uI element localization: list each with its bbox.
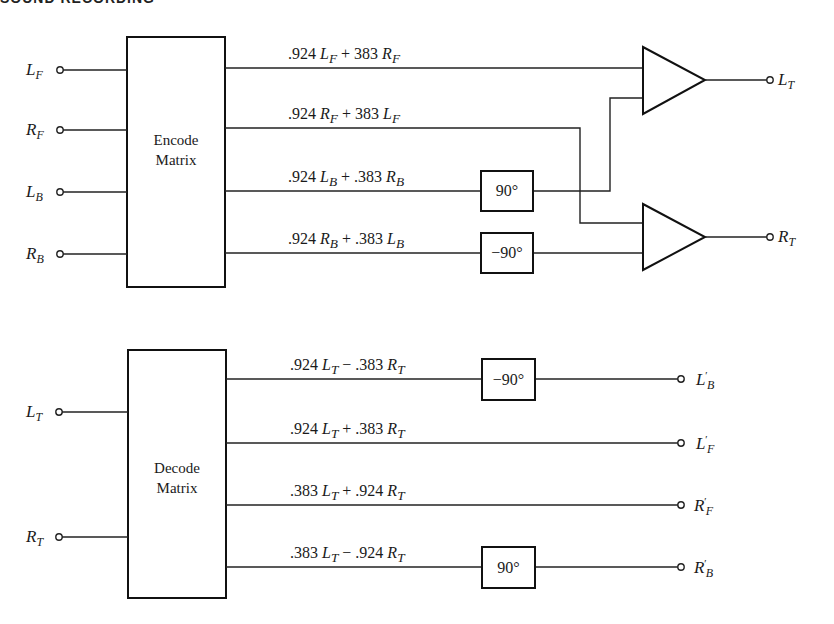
decoder-input-label-lt: LT [26, 403, 42, 423]
output-label-lb-prime: L′B [696, 370, 714, 391]
decoder-phase-label-minus-90: −90° [482, 372, 535, 388]
decoder-output-eq-1: .924 LT − .383 RT [290, 357, 405, 377]
decoder-input-label-rt: RT [26, 528, 43, 548]
encoder-phase-label-minus-90: −90° [481, 245, 533, 261]
encoder-output-eq-3: .924 LB + .383 RB [288, 169, 404, 189]
summing-amplifier-lt [643, 47, 705, 114]
input-label-rf: RF [26, 121, 44, 141]
decode-matrix-label: DecodeMatrix [128, 458, 226, 498]
output-label-lf-prime: L′F [696, 434, 714, 455]
circuit-wiring [0, 0, 834, 624]
encoder-output-eq-1: .924 LF + 383 RF [288, 46, 400, 66]
decoder-output-eq-4: .383 LT − .924 RT [290, 545, 405, 565]
output-label-lt: LT [778, 71, 794, 91]
input-label-rb: RB [26, 245, 44, 265]
decoder-output-wires [226, 376, 684, 570]
decoder-phase-label-90: 90° [482, 560, 535, 576]
summing-amplifier-rt [643, 204, 705, 270]
decoder-output-eq-3: .383 LT + .924 RT [290, 483, 405, 503]
encoder-input-wires [57, 67, 127, 257]
encoder-output-wires [225, 68, 643, 253]
encoder-phase-label-90: 90° [481, 183, 533, 199]
output-label-rf-prime: R′F [694, 496, 713, 517]
input-label-lf: LF [26, 61, 43, 81]
output-label-rt: RT [778, 228, 795, 248]
encoder-output-eq-2: .924 RF + 383 LF [288, 106, 400, 126]
output-label-rb-prime: R′B [694, 558, 713, 579]
decoder-output-eq-2: .924 LT + .383 RT [290, 421, 405, 441]
encoder-output-eq-4: .924 RB + .383 LB [288, 231, 404, 251]
encode-matrix-label: EncodeMatrix [127, 130, 225, 170]
decoder-input-wires [56, 409, 128, 540]
input-label-lb: LB [26, 183, 43, 203]
